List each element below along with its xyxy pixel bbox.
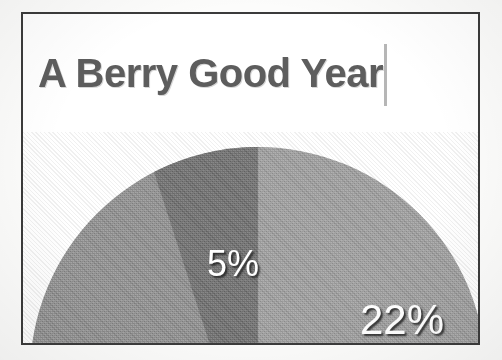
screenshot-root: A Berry Good Year — [0, 0, 502, 360]
chart-title-row: A Berry Good Year — [23, 14, 478, 132]
chart-frame: A Berry Good Year — [21, 12, 480, 345]
pie-label-right-slice: 22% — [360, 299, 444, 341]
pie-label-middle-slice: 5% — [207, 246, 259, 282]
page-title[interactable]: A Berry Good Year — [38, 53, 383, 93]
text-caret-icon — [384, 44, 387, 106]
